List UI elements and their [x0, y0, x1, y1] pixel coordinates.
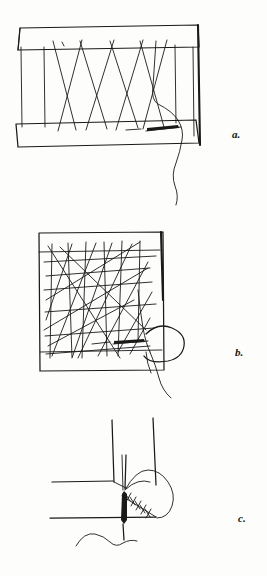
figure-a-label: a. — [232, 129, 240, 140]
figure-a-crossing-threads — [53, 40, 167, 131]
illustration-plate — [0, 0, 267, 576]
figure-a-top-bar — [18, 25, 199, 50]
figure-a-thread — [153, 41, 183, 205]
figure-a-right-edge — [198, 25, 200, 145]
figure-b-label: b. — [235, 347, 243, 358]
figure-c-label: c. — [238, 513, 246, 524]
figure-c-cross-stitches — [122, 493, 156, 518]
figure-c-drawing — [50, 418, 173, 546]
figure-b-hand — [138, 290, 184, 398]
figure-b-drawing — [39, 232, 184, 398]
figure-c-thread-loop — [125, 470, 173, 518]
figure-a-bottom-bar — [16, 120, 199, 147]
figure-a-drawing — [16, 25, 200, 205]
figure-b-needle — [92, 339, 148, 344]
figure-c-loose-thread — [76, 534, 137, 546]
figure-a-needle — [126, 125, 181, 131]
